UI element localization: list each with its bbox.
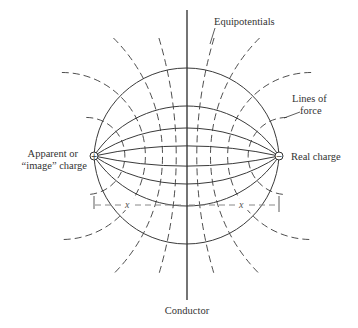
image-charge-diagram: x x + − Equipotentials Lines of force Ap…: [0, 0, 358, 328]
distance-label-left: x: [124, 199, 130, 210]
equipotentials-leader: [210, 28, 215, 44]
equipotential-line: [159, 38, 176, 274]
lines-of-force-label-line1: Lines of: [292, 93, 327, 104]
apparent-charge-label-line2: “image” charge: [22, 160, 88, 171]
image-charge: +: [90, 152, 98, 161]
distance-label-right: x: [238, 199, 244, 210]
real-charge-sign: −: [276, 152, 283, 161]
conductor-label: Conductor: [165, 305, 210, 316]
equipotential-line: [197, 38, 214, 274]
image-charge-sign: +: [91, 152, 98, 161]
real-charge: −: [275, 152, 283, 161]
lines-of-force-leader: [284, 112, 300, 118]
lines-of-force-label-line2: force: [300, 105, 322, 116]
equipotentials-label: Equipotentials: [214, 16, 275, 27]
real-charge-label: Real charge: [291, 151, 341, 162]
apparent-charge-label-line1: Apparent or: [28, 148, 79, 159]
